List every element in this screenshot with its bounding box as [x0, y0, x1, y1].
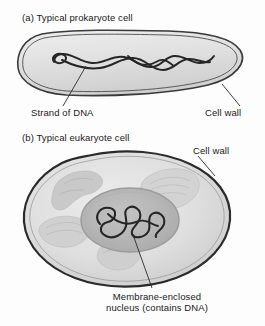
label-strand-of-dna: Strand of DNA — [31, 107, 94, 118]
cell-comparison-figure: (a) Typical prokaryote cell Strand of — [0, 0, 265, 326]
cell-wall-leader-line — [222, 84, 240, 106]
label-nucleus-line2: nucleus (contains DNA) — [82, 302, 232, 313]
label-prokaryote-cell-wall: Cell wall — [205, 107, 241, 118]
label-nucleus: Membrane-enclosed nucleus (contains DNA) — [82, 291, 232, 313]
panel-prokaryote: (a) Typical prokaryote cell Strand of — [0, 0, 265, 128]
panel-eukaryote: (b) Typical eukaryote cell — [0, 128, 265, 326]
label-nucleus-line1: Membrane-enclosed — [82, 291, 232, 302]
label-eukaryote-cell-wall: Cell wall — [193, 145, 229, 156]
